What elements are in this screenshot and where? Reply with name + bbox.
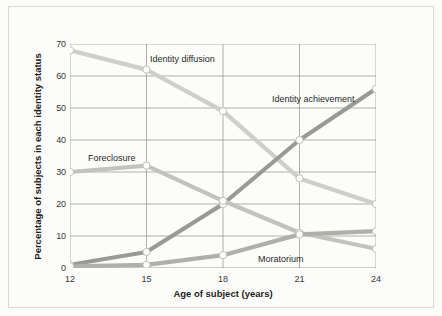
data-point <box>372 245 376 252</box>
y-tick-label: 70 <box>40 39 66 49</box>
series-label-identity-diffusion: Identity diffusion <box>150 54 215 64</box>
data-point <box>219 197 226 204</box>
data-point <box>70 168 74 175</box>
x-tick-label: 12 <box>55 274 85 284</box>
y-tick-label: 0 <box>40 263 66 273</box>
data-point <box>143 66 150 73</box>
y-tick-label: 10 <box>40 231 66 241</box>
data-point <box>70 47 74 54</box>
data-point <box>143 261 150 268</box>
y-tick-label: 40 <box>40 135 66 145</box>
series-label-moratorium: Moratorium <box>258 254 304 264</box>
x-tick-label: 18 <box>208 274 238 284</box>
series-label-foreclosure: Foreclosure <box>88 153 136 163</box>
data-point <box>372 228 376 235</box>
chart-figure: Percentage of subjects in each identity … <box>0 0 442 316</box>
data-point <box>296 175 303 182</box>
y-axis-title-text: Percentage of subjects in each identity … <box>32 53 43 259</box>
data-point <box>296 136 303 143</box>
series-label-identity-achievement: Identity achievement <box>272 94 355 104</box>
data-point <box>219 252 226 259</box>
x-tick-label: 24 <box>361 274 391 284</box>
y-tick-label: 20 <box>40 199 66 209</box>
x-axis-title-text: Age of subject (years) <box>173 288 272 299</box>
x-tick-label: 21 <box>285 274 315 284</box>
data-point <box>219 108 226 115</box>
x-axis-title: Age of subject (years) <box>70 288 376 299</box>
data-point <box>296 231 303 238</box>
data-point <box>372 200 376 207</box>
data-point <box>372 85 376 92</box>
data-point <box>143 162 150 169</box>
x-tick-label: 15 <box>132 274 162 284</box>
y-tick-label: 60 <box>40 71 66 81</box>
data-point <box>143 248 150 255</box>
y-tick-label: 30 <box>40 167 66 177</box>
y-tick-label: 50 <box>40 103 66 113</box>
